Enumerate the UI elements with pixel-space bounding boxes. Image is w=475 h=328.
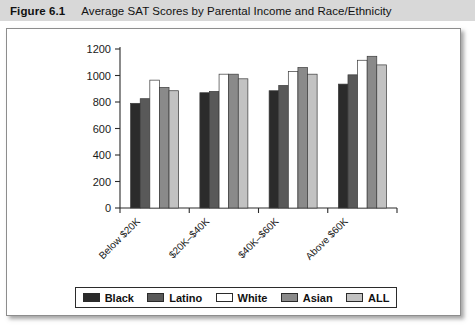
y-tick-label: 800	[93, 96, 111, 108]
figure-caption-band: Figure 6.1 Average SAT Scores by Parenta…	[0, 0, 475, 21]
y-tick-label: 0	[105, 202, 111, 214]
legend-label: Black	[105, 292, 134, 304]
x-axis-label: Above $60K	[303, 215, 350, 262]
legend-item-all: ALL	[346, 292, 389, 304]
bar-black-0	[131, 103, 141, 208]
x-axis-label: Below $20K	[97, 215, 143, 261]
legend-label: Asian	[303, 292, 333, 304]
bar-all-3	[377, 65, 387, 208]
chart-frame: 020040060080010001200Below $20K$20K–$40K…	[6, 28, 461, 316]
bar-black-2	[269, 91, 279, 208]
legend-swatch-black	[83, 293, 100, 302]
bar-black-1	[200, 93, 210, 208]
y-tick-label: 1200	[87, 43, 111, 55]
bar-black-3	[338, 84, 348, 208]
legend-item-asian: Asian	[281, 292, 333, 304]
figure-number: Figure 6.1	[10, 5, 65, 17]
legend-swatch-asian	[281, 293, 298, 302]
bar-all-2	[308, 74, 318, 208]
x-axis-label: $40K–$60K	[236, 215, 281, 260]
y-tick-label: 1000	[87, 70, 111, 82]
bar-white-1	[219, 74, 229, 208]
bar-latino-1	[209, 91, 219, 208]
bar-latino-3	[348, 75, 358, 208]
legend-label: ALL	[368, 292, 389, 304]
chart-svg: 020040060080010001200Below $20K$20K–$40K…	[7, 29, 462, 317]
bar-asian-3	[367, 56, 377, 208]
legend-swatch-all	[346, 293, 363, 302]
legend-label: Latino	[169, 292, 202, 304]
y-tick-label: 400	[93, 149, 111, 161]
y-tick-label: 600	[93, 123, 111, 135]
bar-all-0	[169, 91, 179, 208]
bar-asian-0	[159, 87, 169, 208]
figure-title: Average SAT Scores by Parental Income an…	[81, 5, 391, 17]
legend-item-latino: Latino	[147, 292, 202, 304]
bar-white-0	[150, 80, 160, 208]
legend-label: White	[238, 292, 268, 304]
legend-swatch-white	[216, 293, 233, 302]
y-tick-label: 200	[93, 176, 111, 188]
bar-latino-2	[279, 85, 289, 208]
bar-white-3	[358, 60, 368, 208]
bar-white-2	[288, 72, 298, 208]
legend-swatch-latino	[147, 293, 164, 302]
bar-asian-2	[298, 68, 308, 208]
chart-legend: BlackLatinoWhiteAsianALL	[75, 287, 397, 308]
bar-chart: 020040060080010001200Below $20K$20K–$40K…	[7, 29, 462, 317]
bar-all-1	[238, 79, 248, 208]
x-axis-label: $20K–$40K	[167, 215, 212, 260]
legend-item-black: Black	[83, 292, 134, 304]
legend-item-white: White	[216, 292, 268, 304]
bar-latino-0	[140, 99, 150, 208]
bar-asian-1	[229, 74, 239, 208]
